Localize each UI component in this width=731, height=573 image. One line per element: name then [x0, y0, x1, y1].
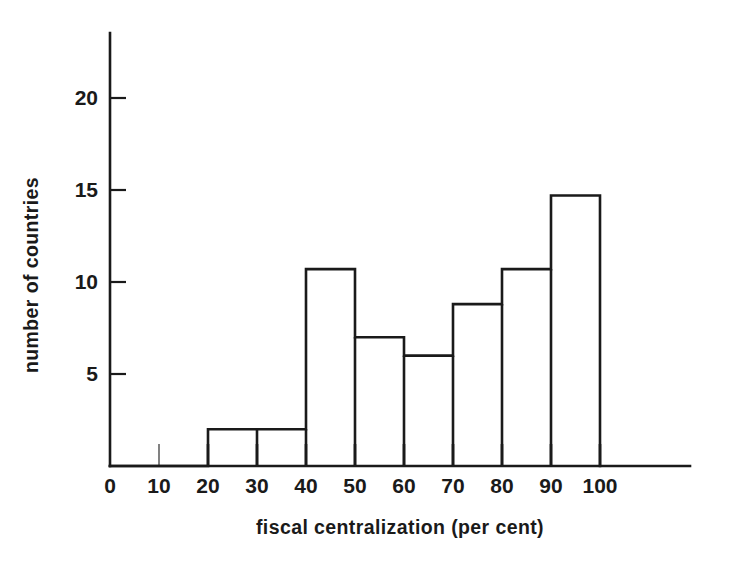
- x-tick-label-40: 40: [294, 474, 317, 497]
- x-tick-label-80: 80: [490, 474, 513, 497]
- x-axis-title: fiscal centralization (per cent): [256, 516, 544, 538]
- y-tick-label-20: 20: [75, 86, 98, 109]
- x-tick-label-60: 60: [392, 474, 415, 497]
- y-tick-label-5: 5: [86, 362, 98, 385]
- histogram-figure: 5101520 0102030405060708090100 fiscal ce…: [0, 0, 731, 573]
- y-tick-label-15: 15: [75, 178, 99, 201]
- x-tick-label-20: 20: [196, 474, 219, 497]
- y-axis-title: number of countries: [20, 177, 42, 373]
- x-tick-label-10: 10: [147, 474, 170, 497]
- x-tick-label-0: 0: [104, 474, 116, 497]
- y-tick-label-10: 10: [75, 270, 98, 293]
- x-tick-label-90: 90: [539, 474, 562, 497]
- chart-canvas: 5101520 0102030405060708090100 fiscal ce…: [0, 0, 731, 573]
- x-tick-label-100: 100: [582, 474, 617, 497]
- x-tick-label-70: 70: [441, 474, 464, 497]
- x-tick-label-30: 30: [245, 474, 268, 497]
- x-tick-label-50: 50: [343, 474, 366, 497]
